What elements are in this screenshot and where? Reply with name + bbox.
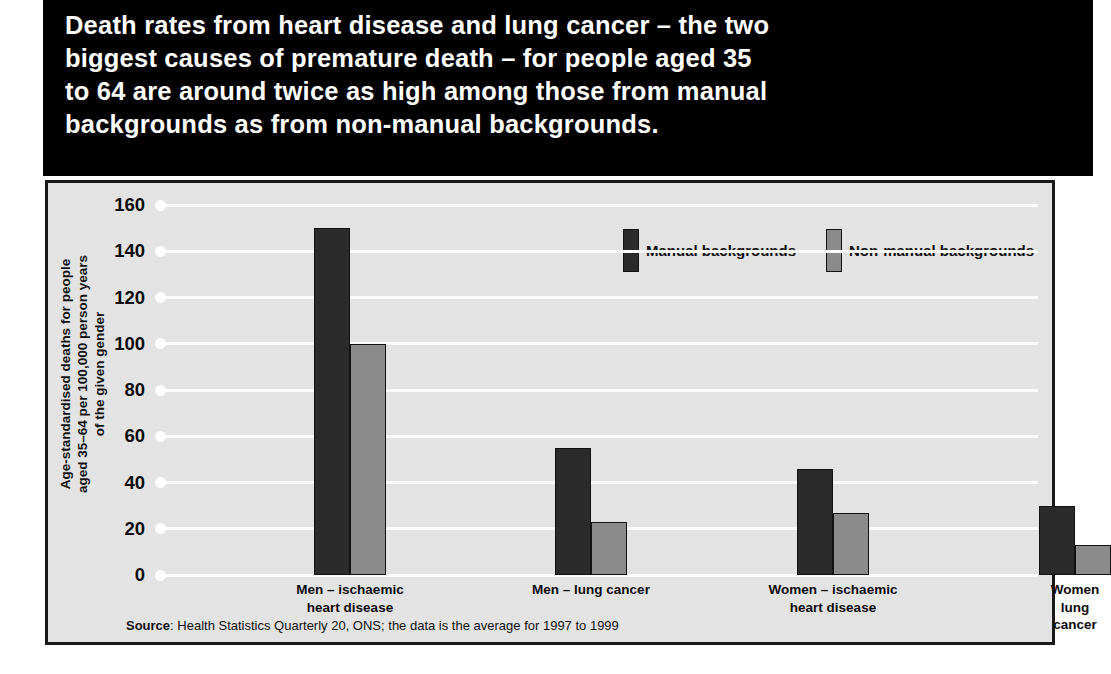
gridline bbox=[163, 481, 1038, 484]
y-axis-tick-dot bbox=[155, 385, 166, 396]
bar-non-manual bbox=[591, 522, 627, 575]
y-axis-tick-label: 40 bbox=[124, 472, 145, 494]
y-axis-tick-label: 140 bbox=[114, 240, 145, 262]
chart-panel: Age-standardised deaths for people aged … bbox=[45, 180, 1055, 645]
y-axis-tick-label: 20 bbox=[124, 518, 145, 540]
bar-non-manual bbox=[1075, 545, 1111, 575]
bar-manual bbox=[314, 228, 350, 575]
y-axis-title: Age-standardised deaths for people aged … bbox=[58, 209, 114, 539]
x-axis-category-label: Men – ischaemic heart disease bbox=[296, 581, 403, 616]
y-axis-tick-label: 0 bbox=[135, 564, 145, 586]
y-axis-tick-label: 100 bbox=[114, 333, 145, 355]
gridline bbox=[163, 296, 1038, 299]
bar-non-manual bbox=[833, 513, 869, 575]
x-axis-category-label: Women lung cancer bbox=[1051, 581, 1100, 634]
source-note: Source: Health Statistics Quarterly 20, … bbox=[126, 618, 619, 633]
y-axis-tick-dot bbox=[155, 292, 166, 303]
x-axis-category-label: Women – ischaemic heart disease bbox=[769, 581, 898, 616]
gridline bbox=[163, 250, 1038, 253]
y-axis-tick-dot bbox=[155, 338, 166, 349]
y-axis-tick-dot bbox=[155, 477, 166, 488]
gridline bbox=[163, 389, 1038, 392]
bar-manual bbox=[555, 448, 591, 575]
bar-non-manual bbox=[350, 344, 386, 575]
y-axis-tick-label: 120 bbox=[114, 287, 145, 309]
gridline bbox=[163, 342, 1038, 345]
y-axis-tick-dot bbox=[155, 200, 166, 211]
title-banner: Death rates from heart disease and lung … bbox=[43, 0, 1093, 176]
page-title: Death rates from heart disease and lung … bbox=[65, 9, 1071, 142]
source-note-text: : Health Statistics Quarterly 20, ONS; t… bbox=[170, 618, 619, 633]
x-axis-category-label: Men – lung cancer bbox=[532, 581, 650, 599]
y-axis-tick-label: 80 bbox=[124, 379, 145, 401]
gridline bbox=[163, 435, 1038, 438]
y-axis-tick-dot bbox=[155, 246, 166, 257]
source-note-prefix: Source bbox=[126, 618, 170, 633]
y-axis-tick-label: 160 bbox=[114, 194, 145, 216]
y-axis-tick-dot bbox=[155, 431, 166, 442]
y-axis-tick-label: 60 bbox=[124, 425, 145, 447]
bar-manual bbox=[797, 469, 833, 575]
gridline bbox=[163, 204, 1038, 207]
plot-area: Manual backgrounds Non-manual background… bbox=[155, 205, 1038, 575]
bar-manual bbox=[1039, 506, 1075, 575]
y-axis-tick-dot bbox=[155, 570, 166, 581]
y-axis-tick-dot bbox=[155, 523, 166, 534]
